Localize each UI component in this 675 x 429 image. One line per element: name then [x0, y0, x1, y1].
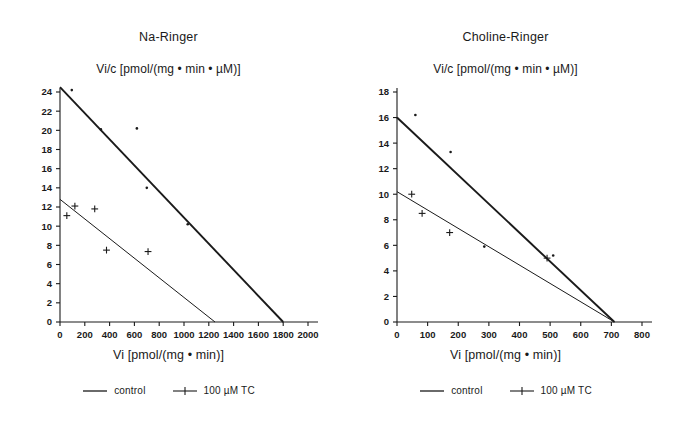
data-point-control: [186, 223, 189, 226]
fit-line-dot: [397, 118, 614, 322]
x-tick-label: 1800: [273, 329, 294, 340]
y-tick-label: 22: [41, 106, 52, 117]
legend-item-control-left: control: [82, 385, 145, 396]
data-point-tc: [145, 248, 152, 255]
control-line-icon: [82, 386, 108, 396]
plot-area-left: 0246810121416182022240200400600800100012…: [0, 82, 337, 347]
x-tick-label: 300: [481, 329, 497, 340]
x-tick-label: 1200: [198, 329, 219, 340]
y-tick-label: 24: [41, 86, 52, 97]
x-tick-label: 400: [512, 329, 528, 340]
data-point-tc: [103, 247, 110, 254]
legend-item-tc-right: 100 µM TC: [509, 385, 592, 396]
y-axis-label-left: Vi/c [pmol/(mg • min • µM)]: [0, 62, 337, 76]
chart-panel-choline-ringer: Choline-Ringer Vi/c [pmol/(mg • min • µM…: [337, 0, 674, 429]
legend-label-tc-left: 100 µM TC: [204, 385, 255, 396]
x-axis-label-left: Vi [pmol/(mg • min)]: [0, 348, 337, 362]
legend-label-tc-right: 100 µM TC: [541, 385, 592, 396]
legend-label-control-left: control: [114, 385, 145, 396]
chart-title-right: Choline-Ringer: [337, 30, 674, 44]
legend-item-tc-left: 100 µM TC: [172, 385, 255, 396]
y-tick-label: 4: [384, 265, 390, 276]
x-tick-label: 500: [542, 329, 558, 340]
data-point-control: [136, 127, 139, 130]
x-tick-label: 1400: [223, 329, 244, 340]
y-tick-label: 6: [47, 259, 52, 270]
fit-line-plus: [60, 199, 215, 322]
y-tick-label: 12: [41, 201, 52, 212]
legend-label-control-right: control: [451, 385, 482, 396]
data-point-control: [146, 187, 149, 190]
tc-plus-line-icon: [172, 386, 198, 396]
y-tick-label: 8: [47, 240, 52, 251]
x-tick-label: 2000: [297, 329, 318, 340]
y-tick-label: 8: [384, 214, 389, 225]
x-tick-label: 800: [151, 329, 167, 340]
y-tick-label: 0: [47, 316, 52, 327]
data-point-control: [414, 114, 417, 117]
data-point-control: [100, 128, 103, 131]
legend-left: control 100 µM TC: [0, 385, 337, 396]
x-tick-label: 400: [102, 329, 118, 340]
data-point-tc: [91, 206, 98, 213]
y-tick-label: 16: [41, 163, 52, 174]
y-tick-label: 10: [41, 221, 52, 232]
x-tick-label: 200: [77, 329, 93, 340]
x-tick-label: 1000: [173, 329, 194, 340]
data-point-tc: [71, 203, 78, 210]
y-tick-label: 18: [41, 144, 52, 155]
figure-container: Na-Ringer Vi/c [pmol/(mg • min • µM)] 02…: [0, 0, 675, 429]
x-axis-label-right: Vi [pmol/(mg • min)]: [337, 348, 674, 362]
y-tick-label: 14: [41, 182, 52, 193]
data-point-tc: [419, 210, 426, 217]
data-point-tc: [408, 191, 415, 198]
data-point-control: [449, 151, 452, 154]
y-tick-label: 4: [47, 278, 53, 289]
fit-line-dot: [60, 87, 283, 322]
fit-line-plus: [397, 192, 614, 322]
control-line-icon: [419, 386, 445, 396]
y-tick-label: 10: [378, 189, 389, 200]
x-tick-label: 700: [603, 329, 619, 340]
data-point-control: [483, 245, 486, 248]
y-tick-label: 16: [378, 112, 389, 123]
y-tick-label: 20: [41, 125, 52, 136]
x-tick-label: 600: [126, 329, 142, 340]
chart-panel-na-ringer: Na-Ringer Vi/c [pmol/(mg • min • µM)] 02…: [0, 0, 337, 429]
y-tick-label: 18: [378, 86, 389, 97]
y-tick-label: 14: [378, 138, 389, 149]
data-point-tc: [446, 229, 453, 236]
y-tick-label: 2: [47, 297, 52, 308]
x-tick-label: 100: [420, 329, 436, 340]
legend-item-control-right: control: [419, 385, 482, 396]
x-tick-label: 800: [634, 329, 650, 340]
y-tick-label: 12: [378, 163, 389, 174]
x-tick-label: 600: [573, 329, 589, 340]
y-tick-label: 0: [384, 316, 389, 327]
data-point-control: [552, 254, 555, 257]
plot-area-right: 0246810121416180100200300400500600700800: [337, 82, 674, 347]
data-point-tc: [63, 212, 70, 219]
x-tick-label: 0: [57, 329, 62, 340]
tc-plus-line-icon: [509, 386, 535, 396]
x-tick-label: 200: [450, 329, 466, 340]
y-tick-label: 6: [384, 240, 389, 251]
y-axis-label-right: Vi/c [pmol/(mg • min • µM)]: [337, 62, 674, 76]
legend-right: control 100 µM TC: [337, 385, 674, 396]
chart-title-left: Na-Ringer: [0, 30, 337, 44]
x-tick-label: 1600: [248, 329, 269, 340]
y-tick-label: 2: [384, 291, 389, 302]
data-point-control: [70, 89, 73, 92]
x-tick-label: 0: [394, 329, 399, 340]
